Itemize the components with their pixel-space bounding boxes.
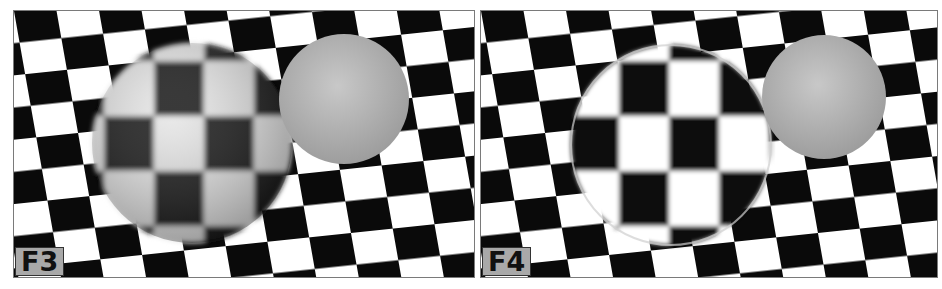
render-image-f3 [14,11,474,277]
render-image-f4 [481,11,937,277]
panel-f3: F3 [13,10,475,278]
panel-label-f3: F3 [15,247,64,276]
panel-label-f4: F4 [482,247,531,276]
panel-f4: F4 [480,10,938,278]
